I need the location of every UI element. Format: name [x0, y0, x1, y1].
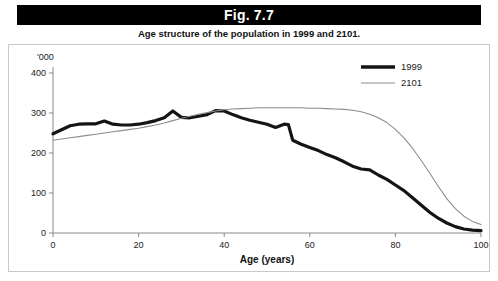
- legend-label-2101: 2101: [401, 77, 422, 88]
- x-axis-tick-label-80: 80: [390, 240, 400, 250]
- y-axis-tick-label-300: 300: [31, 108, 46, 118]
- x-axis-tick-label-40: 40: [219, 240, 229, 250]
- x-axis-tick-label-0: 0: [50, 240, 55, 250]
- figure-title: Fig. 7.7: [17, 5, 481, 25]
- legend-label-1999: 1999: [401, 61, 422, 72]
- y-axis-tick-label-100: 100: [31, 188, 46, 198]
- age-structure-line-chart: '0000100200300400020406080100Age (years)…: [9, 45, 489, 271]
- y-axis-tick-label-400: 400: [31, 68, 46, 78]
- figure-container: Fig. 7.7 Age structure of the population…: [0, 0, 498, 281]
- figure-subtitle: Age structure of the population in 1999 …: [8, 28, 490, 39]
- chart-panel: '0000100200300400020406080100Age (years)…: [8, 44, 490, 272]
- y-axis-tick-label-0: 0: [41, 228, 46, 238]
- x-axis-tick-label-60: 60: [305, 240, 315, 250]
- series-line-1999: [53, 111, 481, 231]
- x-axis-tick-label-20: 20: [134, 240, 144, 250]
- y-axis-unit-label: '000: [37, 52, 54, 62]
- x-axis-title: Age (years): [240, 254, 294, 265]
- y-axis-tick-label-200: 200: [31, 148, 46, 158]
- x-axis-tick-label-100: 100: [473, 240, 488, 250]
